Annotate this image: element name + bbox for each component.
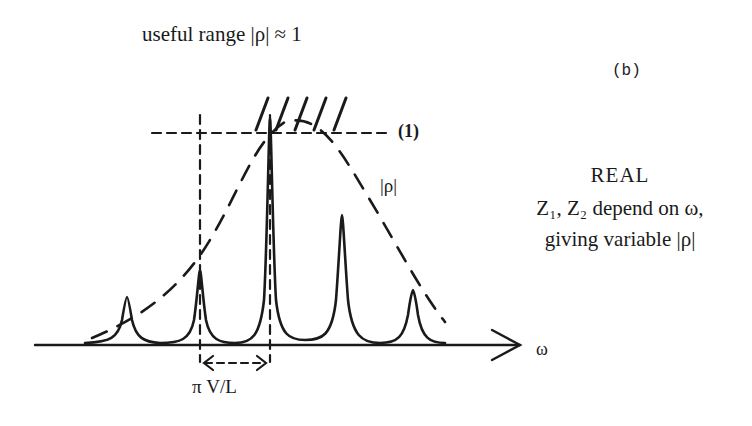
resonance-spectrum	[85, 118, 445, 343]
peak-spacing-arrow	[204, 356, 266, 370]
diagram-canvas	[0, 0, 752, 426]
